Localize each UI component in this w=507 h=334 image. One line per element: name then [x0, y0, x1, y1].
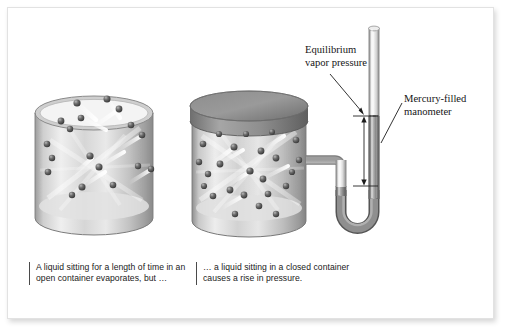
- annotation-equilibrium-vapor-pressure: Equilibrium vapor pressure: [305, 44, 369, 69]
- figure-root: Equilibrium vapor pressure Mercury-fille…: [0, 0, 507, 334]
- annotation-mercury-filled-manometer: Mercury-filled manometer: [404, 93, 496, 118]
- caption-closed-container: … a liquid sitting in a closed container…: [196, 262, 363, 285]
- caption-open-container: A liquid sitting for a length of time in…: [29, 262, 186, 285]
